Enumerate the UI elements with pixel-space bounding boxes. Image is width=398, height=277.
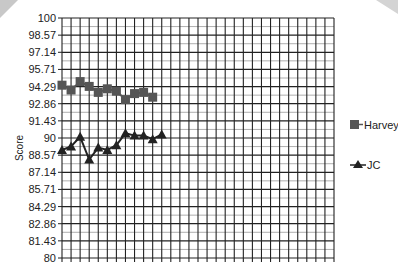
- legend-item-harvey: Harvey: [350, 119, 398, 131]
- y-tick-label: 81.43: [28, 235, 56, 247]
- y-axis-label: Score: [14, 135, 25, 162]
- y-tick-label: 82.86: [28, 218, 56, 230]
- plot-grid: [62, 18, 334, 262]
- square-marker-icon: [76, 77, 85, 86]
- square-marker-icon: [148, 93, 157, 102]
- line-chart: 10098.5797.1495.7194.2992.8691.439088.57…: [0, 0, 398, 277]
- y-tick-label: 84.29: [28, 201, 56, 213]
- legend: Harvey JC: [350, 119, 398, 171]
- legend-label: JC: [367, 159, 381, 171]
- y-tick-label: 80: [44, 252, 56, 264]
- triangle-marker-icon: [93, 143, 103, 152]
- y-tick-label: 90: [44, 132, 56, 144]
- legend-item-jc: JC: [350, 159, 381, 171]
- triangle-marker-icon: [157, 129, 167, 138]
- y-tick-label: 94.29: [28, 81, 56, 93]
- legend-label: Harvey: [364, 119, 398, 131]
- square-marker-icon: [121, 95, 130, 104]
- y-tick-label: 88.57: [28, 149, 56, 161]
- square-marker-icon: [112, 87, 121, 96]
- triangle-marker-icon: [75, 132, 85, 141]
- y-tick-label: 87.14: [28, 166, 56, 178]
- y-tick-label: 92.86: [28, 98, 56, 110]
- y-tick-label: 97.14: [28, 46, 56, 58]
- square-marker-icon: [130, 89, 139, 98]
- y-tick-label: 95.71: [28, 63, 56, 75]
- square-marker-icon: [67, 86, 76, 95]
- square-marker-icon: [85, 82, 94, 91]
- y-tick-label: 85.71: [28, 183, 56, 195]
- square-marker-icon: [139, 88, 148, 97]
- square-marker-icon: [103, 84, 112, 93]
- y-tick-label: 98.57: [28, 29, 56, 41]
- y-tick-label: 100: [38, 12, 56, 24]
- square-marker-icon: [350, 120, 359, 129]
- square-marker-icon: [58, 81, 67, 90]
- y-axis-ticks: 10098.5797.1495.7194.2992.8691.439088.57…: [28, 12, 62, 264]
- square-marker-icon: [94, 88, 103, 97]
- y-tick-label: 91.43: [28, 115, 56, 127]
- triangle-marker-icon: [353, 160, 363, 168]
